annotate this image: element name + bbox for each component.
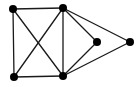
graph-diagram [0,0,139,87]
node-F [59,72,67,80]
edge-A-B [13,8,63,9]
edge-A-E [13,9,14,77]
node-B [59,4,67,12]
edge-B-D [63,8,130,42]
nodes-group [9,4,134,81]
edge-E-F [14,76,63,77]
node-A [9,5,17,13]
edge-F-D [63,42,130,76]
node-D [126,38,134,46]
edge-B-C [63,8,97,42]
node-E [10,73,18,81]
node-C [93,38,101,46]
edge-F-C [63,42,97,76]
edges-group [13,8,130,77]
